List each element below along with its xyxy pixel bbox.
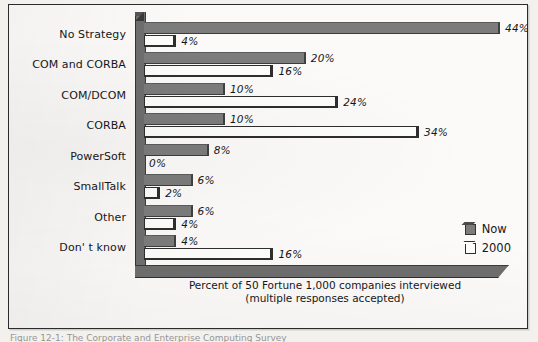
- bar-2000: [144, 35, 176, 47]
- legend-swatch-now-icon: [465, 224, 476, 235]
- bar-2000: [144, 96, 338, 108]
- bar-now: [144, 83, 225, 95]
- category-label: COM and CORBA: [13, 50, 131, 81]
- bar-value-2000: 4%: [181, 35, 198, 47]
- chart-legend: Now 2000: [465, 222, 511, 255]
- bar-2000: [144, 126, 419, 138]
- chart-plot-area: No Strategy COM and CORBA COM/DCOM CORBA…: [9, 5, 527, 328]
- bar-group: 44% 4%: [144, 19, 510, 50]
- bar-row-2000: 34%: [144, 126, 510, 138]
- x-axis-caption: Percent of 50 Fortune 1,000 companies in…: [135, 279, 515, 305]
- x-axis-caption-line1: Percent of 50 Fortune 1,000 companies in…: [135, 279, 515, 292]
- legend-swatch-2000-icon: [465, 243, 476, 254]
- bar-now: [144, 22, 500, 34]
- legend-item-2000: 2000: [465, 241, 511, 255]
- bar-value-2000: 16%: [278, 248, 302, 260]
- bar-2000: [144, 65, 273, 77]
- bar-row-2000: 4%: [144, 218, 510, 230]
- bar-group: 8% 0%: [144, 141, 510, 172]
- bar-value-now: 10%: [230, 113, 254, 125]
- bar-now: [144, 144, 209, 156]
- category-axis-labels: No Strategy COM and CORBA COM/DCOM CORBA…: [13, 19, 131, 263]
- bar-now: [144, 52, 306, 64]
- bar-row-2000: 2%: [144, 187, 510, 199]
- bar-row-2000: 16%: [144, 65, 510, 77]
- bar-group: 20% 16%: [144, 50, 510, 81]
- bar-row-now: 44%: [144, 22, 510, 34]
- bar-row-2000: 0%: [144, 157, 510, 169]
- bar-value-now: 4%: [181, 235, 198, 247]
- bar-value-2000: 16%: [278, 65, 302, 77]
- bar-2000: [144, 187, 160, 199]
- bar-value-2000: 34%: [424, 126, 448, 138]
- bar-now: [144, 205, 193, 217]
- bar-group: 10% 24%: [144, 80, 510, 111]
- bar-row-now: 6%: [144, 205, 510, 217]
- category-label: PowerSoft: [13, 141, 131, 172]
- category-label: Don' t know: [13, 233, 131, 264]
- figure-caption-text: Figure 12-1: The Corporate and Enterpris…: [10, 334, 310, 342]
- bar-row-now: 4%: [144, 235, 510, 247]
- figure-frame: No Strategy COM and CORBA COM/DCOM CORBA…: [8, 4, 528, 329]
- category-label: COM/DCOM: [13, 80, 131, 111]
- bar-row-2000: 24%: [144, 96, 510, 108]
- bar-group: 6% 4%: [144, 202, 510, 233]
- category-label: CORBA: [13, 111, 131, 142]
- bar-row-2000: 16%: [144, 248, 510, 260]
- bar-value-now: 8%: [214, 144, 231, 156]
- bar-now: [144, 113, 225, 125]
- category-label: SmallTalk: [13, 172, 131, 203]
- bar-group: 10% 34%: [144, 111, 510, 142]
- bar-row-now: 8%: [144, 144, 510, 156]
- bar-2000: [144, 248, 273, 260]
- bar-2000: [144, 218, 176, 230]
- horizontal-axis-baseline: [135, 265, 509, 278]
- bar-row-now: 6%: [144, 174, 510, 186]
- bar-now: [144, 235, 176, 247]
- bar-groups: 44% 4% 20% 16% 1: [144, 19, 510, 263]
- bar-group: 6% 2%: [144, 172, 510, 203]
- legend-item-now: Now: [465, 222, 511, 236]
- bar-value-now: 20%: [311, 52, 335, 64]
- bar-value-2000: 2%: [165, 187, 182, 199]
- bar-value-now: 6%: [198, 205, 215, 217]
- figure-caption: Figure 12-1: The Corporate and Enterpris…: [10, 334, 310, 342]
- bar-value-2000: 4%: [181, 218, 198, 230]
- legend-label-2000: 2000: [482, 241, 511, 255]
- bar-now: [144, 174, 193, 186]
- bar-group: 4% 16%: [144, 233, 510, 264]
- bar-row-now: 10%: [144, 113, 510, 125]
- bar-row-2000: 4%: [144, 35, 510, 47]
- bar-row-now: 20%: [144, 52, 510, 64]
- bar-value-2000: 0%: [149, 157, 166, 169]
- bar-row-now: 10%: [144, 83, 510, 95]
- category-label: Other: [13, 202, 131, 233]
- legend-label-now: Now: [482, 222, 507, 236]
- category-label: No Strategy: [13, 19, 131, 50]
- x-axis-caption-line2: (multiple responses accepted): [135, 292, 515, 305]
- bar-value-now: 44%: [505, 22, 528, 34]
- bar-value-2000: 24%: [343, 96, 367, 108]
- bar-value-now: 10%: [230, 83, 254, 95]
- bar-value-now: 6%: [198, 174, 215, 186]
